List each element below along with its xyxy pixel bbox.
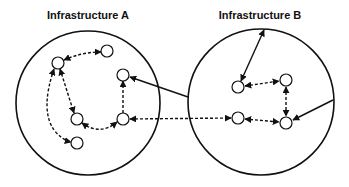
node-a5 — [117, 113, 129, 125]
infrastructure-b-boundary — [188, 29, 334, 175]
edge-a5-b3 — [130, 118, 231, 119]
edge-a4-a5 — [82, 122, 117, 129]
node-a4 — [71, 113, 83, 125]
edge-btop-b1 — [241, 30, 264, 81]
node-b1 — [232, 81, 244, 93]
node-b2 — [280, 74, 292, 86]
node-a1 — [52, 57, 64, 69]
edge-b1-b2 — [245, 81, 279, 86]
node-a2 — [101, 45, 113, 57]
node-a3 — [117, 69, 129, 81]
edge-a1-a2 — [64, 52, 101, 60]
network-diagram — [0, 0, 349, 187]
edge-bright-b4 — [293, 100, 333, 120]
node-b3 — [232, 112, 244, 124]
node-b4 — [280, 117, 292, 129]
edge-a1-a4 — [60, 69, 74, 113]
edge-b3-b4 — [245, 119, 279, 122]
edge-a1-a6 — [47, 69, 71, 142]
node-a6 — [71, 137, 83, 149]
